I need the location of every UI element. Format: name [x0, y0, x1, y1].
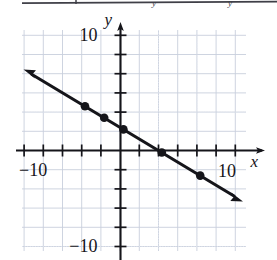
y-tick-label-neg10: −10 [69, 236, 97, 256]
data-point [119, 125, 128, 134]
figure-root: y y [0, 0, 277, 260]
data-point [81, 102, 90, 111]
data-point [158, 148, 167, 157]
y-tick-label-10: 10 [80, 25, 98, 45]
coordinate-graph: y y [0, 0, 277, 260]
x-axis-label: x [249, 152, 258, 171]
header-glyph-y-2: y [227, 0, 232, 8]
data-point [196, 171, 205, 180]
y-axis-label: y [102, 10, 112, 29]
x-tick-label-10: 10 [218, 161, 236, 181]
header-glyph-y-1: y [151, 0, 156, 8]
data-point [100, 114, 109, 123]
x-tick-label-neg10: −10 [19, 160, 47, 180]
